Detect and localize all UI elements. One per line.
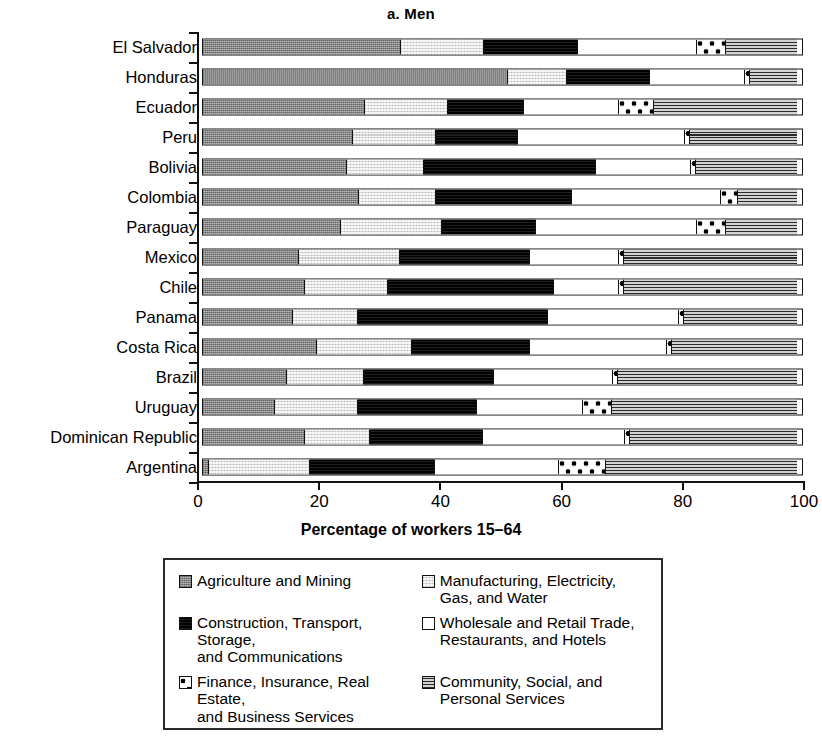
bar-segment-finance-insurance-real-estate-business-services (558, 460, 606, 475)
legend-item-finance-insurance-real-estate-business-services: Finance, Insurance, Real Estate, and Bus… (179, 673, 422, 725)
y-axis-tick-label: El Salvador (113, 39, 197, 56)
bar-row: Dominican Republic (0, 422, 822, 452)
y-axis-tick (189, 272, 198, 274)
stacked-bar (202, 369, 803, 386)
bar-segment-community-social-personal-services (623, 280, 797, 295)
x-axis-tick-label: 60 (552, 492, 571, 512)
bar-row: Uruguay (0, 392, 822, 422)
stacked-bar (202, 459, 803, 476)
stacked-bar (202, 429, 803, 446)
y-axis-tick (189, 332, 198, 334)
bar-segment-construction-transport-storage-communications (447, 100, 525, 115)
stacked-bar (202, 249, 803, 266)
x-axis-tick-label: 40 (431, 492, 450, 512)
legend-item-construction-transport-storage-communications: Construction, Transport, Storage, and Co… (179, 614, 422, 666)
stacked-bar (202, 69, 803, 86)
bar-segment-manufacturing-electricity-gas-water (364, 100, 448, 115)
stacked-bar (202, 399, 803, 416)
y-axis-tick (189, 362, 198, 364)
bar-row: Bolivia (0, 152, 822, 182)
bar-segment-community-social-personal-services (695, 160, 797, 175)
bar-segment-finance-insurance-real-estate-business-services (696, 220, 726, 235)
bar-segment-manufacturing-electricity-gas-water (286, 370, 364, 385)
x-axis-tick (561, 481, 563, 490)
bar-segment-manufacturing-electricity-gas-water (292, 310, 358, 325)
y-axis-tick-label: Argentina (126, 459, 197, 476)
stacked-bar (202, 309, 803, 326)
bar-row: Brazil (0, 362, 822, 392)
bar-segment-community-social-personal-services (623, 250, 797, 265)
y-axis-line (197, 32, 199, 482)
y-axis-tick-label: Panama (136, 309, 197, 326)
y-axis-tick (189, 452, 198, 454)
y-axis-tick-label: Brazil (156, 369, 197, 386)
bar-segment-construction-transport-storage-communications (387, 280, 555, 295)
bar-segment-construction-transport-storage-communications (566, 70, 650, 85)
bar-segment-wholesale-retail-trade-restaurants-hotels (523, 100, 619, 115)
y-axis-tick-label: Bolivia (148, 159, 197, 176)
bar-segment-finance-insurance-real-estate-business-services (582, 400, 612, 415)
bar-segment-agriculture-and-mining (203, 340, 317, 355)
bar-segment-wholesale-retail-trade-restaurants-hotels (595, 160, 691, 175)
bar-segment-agriculture-and-mining (203, 70, 508, 85)
bar-segment-construction-transport-storage-communications (369, 430, 483, 445)
bar-segment-manufacturing-electricity-gas-water (340, 220, 442, 235)
bar-segment-construction-transport-storage-communications (399, 250, 531, 265)
bar-segment-manufacturing-electricity-gas-water (316, 340, 412, 355)
bar-row: Paraguay (0, 212, 822, 242)
y-axis-tick (189, 242, 198, 244)
bar-row: Honduras (0, 62, 822, 92)
stacked-bar (202, 279, 803, 296)
stacked-bar (202, 219, 803, 236)
bar-segment-manufacturing-electricity-gas-water (400, 40, 484, 55)
stacked-bar (202, 189, 803, 206)
bar-segment-agriculture-and-mining (203, 310, 293, 325)
bar-segment-wholesale-retail-trade-restaurants-hotels (529, 250, 619, 265)
bar-segment-construction-transport-storage-communications (363, 370, 495, 385)
bar-segment-manufacturing-electricity-gas-water (208, 460, 310, 475)
bar-segment-manufacturing-electricity-gas-water (304, 430, 370, 445)
bar-segment-construction-transport-storage-communications (435, 130, 519, 145)
page-title: a. Men (0, 5, 822, 22)
bar-row: Colombia (0, 182, 822, 212)
y-axis-tick (189, 302, 198, 304)
bar-segment-agriculture-and-mining (203, 400, 275, 415)
bar-segment-agriculture-and-mining (203, 220, 341, 235)
bar-row: Costa Rica (0, 332, 822, 362)
bar-segment-community-social-personal-services (617, 370, 797, 385)
bar-segment-construction-transport-storage-communications (309, 460, 435, 475)
bar-segment-agriculture-and-mining (203, 40, 401, 55)
bar-segment-agriculture-and-mining (203, 430, 305, 445)
legend-swatch-manufacturing-icon (422, 575, 435, 588)
bar-segment-manufacturing-electricity-gas-water (507, 70, 567, 85)
y-axis-tick-label: Honduras (125, 69, 197, 86)
legend-item-agriculture-and-mining: Agriculture and Mining (179, 572, 422, 607)
bar-segment-agriculture-and-mining (203, 160, 347, 175)
bar-segment-community-social-personal-services (689, 130, 797, 145)
bar-segment-manufacturing-electricity-gas-water (358, 190, 436, 205)
y-axis-tick (189, 92, 198, 94)
plot-area: El SalvadorHondurasEcuadorPeruBoliviaCol… (0, 32, 822, 482)
y-axis-tick-label: Peru (162, 129, 197, 146)
bar-segment-manufacturing-electricity-gas-water (274, 400, 358, 415)
x-axis-tick (318, 481, 320, 490)
bar-row: Peru (0, 122, 822, 152)
bar-segment-agriculture-and-mining (203, 250, 299, 265)
bar-segment-agriculture-and-mining (203, 190, 359, 205)
legend-row: Construction, Transport, Storage, and Co… (179, 614, 651, 666)
bar-row: Ecuador (0, 92, 822, 122)
x-axis-title: Percentage of workers 15–64 (0, 521, 822, 539)
legend-label: Construction, Transport, Storage, and Co… (197, 614, 422, 666)
bar-segment-wholesale-retail-trade-restaurants-hotels (649, 70, 745, 85)
bar-segment-agriculture-and-mining (203, 280, 305, 295)
bar-segment-wholesale-retail-trade-restaurants-hotels (577, 40, 697, 55)
bar-segment-agriculture-and-mining (203, 130, 353, 145)
bar-segment-wholesale-retail-trade-restaurants-hotels (535, 220, 697, 235)
y-axis-tick-label: Uruguay (135, 399, 197, 416)
bar-segment-wholesale-retail-trade-restaurants-hotels (529, 340, 667, 355)
bar-segment-construction-transport-storage-communications (411, 340, 531, 355)
bar-segment-construction-transport-storage-communications (435, 190, 573, 205)
legend-item-community-social-personal-services: Community, Social, and Personal Services (422, 673, 651, 725)
legend-swatch-finance-icon (179, 676, 192, 689)
y-axis-tick (189, 182, 198, 184)
